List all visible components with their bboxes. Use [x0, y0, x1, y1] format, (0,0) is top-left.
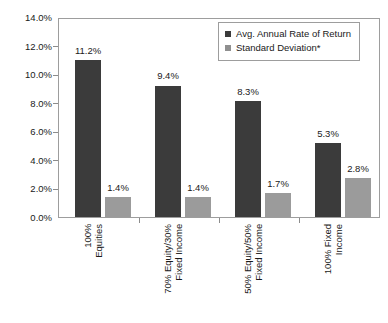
y-tick-label: 0.0%: [0, 213, 52, 223]
bar-value-label: 9.4%: [148, 71, 188, 81]
y-tick-label: 2.0%: [0, 185, 52, 195]
x-tick-mark: [139, 218, 140, 223]
y-tick-mark: [53, 46, 58, 47]
bar-standard-deviation[interactable]: [185, 197, 211, 217]
x-tick-mark: [299, 218, 300, 223]
bar-avg-annual-rate-of-return[interactable]: [75, 60, 101, 217]
legend: Avg. Annual Rate of Return Standard Devi…: [218, 22, 360, 61]
bar-value-label: 2.8%: [340, 164, 376, 174]
x-category-label: 70% Equity/30% Fixed Income: [163, 224, 184, 294]
y-tick-label: 4.0%: [0, 156, 52, 166]
y-tick-mark: [53, 75, 58, 76]
bar-value-label: 11.2%: [67, 46, 109, 56]
bar-standard-deviation[interactable]: [105, 197, 131, 217]
bar-value-label: 1.4%: [101, 183, 135, 193]
bar-chart: 14.0% 12.0% 10.0% 8.0% 6.0% 4.0% 2.0% 0.…: [0, 0, 388, 323]
bar-avg-annual-rate-of-return[interactable]: [235, 101, 261, 217]
y-tick-label: 12.0%: [0, 42, 52, 52]
x-tick-mark: [219, 218, 220, 223]
y-axis: 14.0% 12.0% 10.0% 8.0% 6.0% 4.0% 2.0% 0.…: [0, 18, 52, 218]
legend-swatch-icon: [225, 45, 231, 51]
x-category-label: 100% Equities: [83, 224, 104, 258]
y-tick-mark: [53, 160, 58, 161]
bar-avg-annual-rate-of-return[interactable]: [315, 143, 341, 217]
bar-group: 9.4% 1.4%: [147, 19, 219, 217]
bar-standard-deviation[interactable]: [345, 178, 371, 217]
bar-value-label: 1.7%: [261, 179, 295, 189]
x-axis: 100% Equities 70% Equity/30% Fixed Incom…: [59, 224, 379, 323]
bar-standard-deviation[interactable]: [265, 193, 291, 217]
x-category-label: 100% Fixed Income: [323, 224, 344, 274]
y-tick-label: 8.0%: [0, 99, 52, 109]
legend-item-standard-deviation[interactable]: Standard Deviation*: [225, 41, 351, 55]
bar-value-label: 5.3%: [308, 129, 348, 139]
legend-swatch-icon: [225, 31, 231, 37]
legend-item-label: Standard Deviation*: [236, 43, 321, 53]
y-tick-mark: [53, 103, 58, 104]
legend-item-avg-annual-rate-of-return[interactable]: Avg. Annual Rate of Return: [225, 27, 351, 41]
y-tick-label: 10.0%: [0, 70, 52, 80]
x-category-label: 50% Equity/50% Fixed Income: [243, 224, 264, 294]
y-tick-label: 6.0%: [0, 128, 52, 138]
y-tick-mark: [53, 189, 58, 190]
legend-item-label: Avg. Annual Rate of Return: [236, 29, 351, 39]
bar-value-label: 8.3%: [228, 87, 268, 97]
bar-group: 11.2% 1.4%: [67, 19, 139, 217]
bar-avg-annual-rate-of-return[interactable]: [155, 86, 181, 217]
y-tick-label: 14.0%: [0, 13, 52, 23]
bar-value-label: 1.4%: [181, 183, 215, 193]
y-tick-mark: [53, 132, 58, 133]
